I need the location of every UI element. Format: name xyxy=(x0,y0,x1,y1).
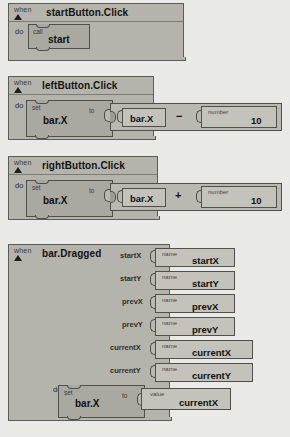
getter-text: bar.X xyxy=(130,193,153,204)
param-label-startX: startX xyxy=(120,251,141,260)
getter-block-bar-x-right[interactable]: bar.X xyxy=(122,188,166,207)
operator-minus: − xyxy=(176,110,182,122)
event-name: rightButton.Click xyxy=(42,160,125,171)
param-binding-startY[interactable]: name startY xyxy=(155,271,235,290)
stack-notch-bottom xyxy=(67,416,81,420)
statement-set-bar-x-right[interactable]: set bar.X to xyxy=(26,180,113,217)
param-value: startX xyxy=(192,255,219,266)
to-keyword: to xyxy=(122,392,127,399)
param-binding-prevX[interactable]: name prevX xyxy=(155,294,235,313)
blocks-canvas[interactable]: when startButton.Click do call start whe… xyxy=(0,0,290,437)
name-label: name xyxy=(162,297,177,303)
name-label: name xyxy=(162,274,177,280)
collapse-triangle-icon[interactable] xyxy=(14,255,22,261)
when-label: when xyxy=(14,79,32,86)
set-keyword: set xyxy=(32,104,41,111)
stack-notch-bottom xyxy=(36,47,50,51)
number-label: number xyxy=(208,109,228,115)
param-label-currentY: currentY xyxy=(110,366,141,375)
collapse-triangle-icon[interactable] xyxy=(14,167,22,173)
param-binding-currentY[interactable]: name currentY xyxy=(155,363,253,382)
name-label: name xyxy=(162,366,177,372)
param-binding-prevY[interactable]: name prevY xyxy=(155,317,235,336)
set-keyword: set xyxy=(32,184,41,191)
name-label: name xyxy=(162,343,177,349)
event-name: leftButton.Click xyxy=(42,80,118,91)
param-label-prevX: prevX xyxy=(122,297,143,306)
procedure-name: start xyxy=(48,34,70,45)
set-keyword: set xyxy=(64,389,73,396)
collapse-triangle-icon[interactable] xyxy=(14,14,22,20)
value-getter-currentX[interactable]: value currentX xyxy=(141,388,231,410)
stack-notch-bottom xyxy=(35,135,49,139)
getter-text: bar.X xyxy=(130,113,153,124)
param-label-startY: startY xyxy=(120,274,141,283)
number-value[interactable]: 10 xyxy=(251,195,262,206)
do-label: do xyxy=(15,181,23,190)
number-block-right[interactable]: number 10 xyxy=(201,186,277,208)
call-keyword: call xyxy=(33,28,43,35)
value-text: currentX xyxy=(179,397,218,408)
when-label: when xyxy=(14,6,32,13)
event-name: bar.Dragged xyxy=(42,248,101,259)
statement-set-bar-x-dragged[interactable]: set bar.X to xyxy=(58,385,145,418)
param-value: prevX xyxy=(192,301,218,312)
property-name: bar.X xyxy=(75,398,99,409)
to-keyword: to xyxy=(89,187,94,194)
number-block-left[interactable]: number 10 xyxy=(201,106,277,128)
param-value: currentX xyxy=(192,347,231,358)
statement-call-start[interactable]: call start xyxy=(28,24,90,49)
property-name: bar.X xyxy=(43,115,67,126)
param-value: startY xyxy=(192,278,219,289)
property-name: bar.X xyxy=(43,195,67,206)
when-label: when xyxy=(14,159,32,166)
event-name: startButton.Click xyxy=(46,7,128,18)
event-footer xyxy=(8,57,186,61)
collapse-triangle-icon[interactable] xyxy=(14,87,22,93)
value-label: value xyxy=(150,391,164,397)
do-label: do xyxy=(15,101,23,110)
getter-block-bar-x-left[interactable]: bar.X xyxy=(122,108,166,127)
name-label: name xyxy=(162,251,177,257)
operator-plus: + xyxy=(175,189,181,201)
param-binding-currentX[interactable]: name currentX xyxy=(155,340,253,359)
when-label: when xyxy=(14,247,32,254)
do-label: do xyxy=(15,27,23,36)
number-value[interactable]: 10 xyxy=(251,115,262,126)
to-keyword: to xyxy=(89,107,94,114)
param-value: prevY xyxy=(192,324,218,335)
param-binding-startX[interactable]: name startX xyxy=(155,248,235,267)
param-label-currentX: currentX xyxy=(110,343,141,352)
param-label-prevY: prevY xyxy=(122,320,143,329)
number-label: number xyxy=(208,189,228,195)
name-label: name xyxy=(162,320,177,326)
stack-notch-bottom xyxy=(35,215,49,219)
statement-set-bar-x-left[interactable]: set bar.X to xyxy=(26,100,113,137)
param-value: currentY xyxy=(192,370,231,381)
